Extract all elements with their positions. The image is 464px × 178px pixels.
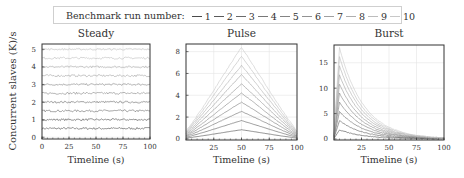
y-tick-label: 0: [324, 135, 328, 143]
x-tick-label: 75: [265, 144, 274, 152]
y-tick-label: 0: [176, 135, 180, 143]
x-tick-label: 75: [119, 143, 128, 151]
chart-title: Burst: [374, 27, 404, 39]
chart-title: Pulse: [227, 27, 256, 39]
x-axis-label: Timeline (s): [213, 154, 270, 165]
x-axis-label: Timeline (s): [67, 154, 124, 165]
x-tick-label: 100: [143, 143, 156, 151]
x-tick-label: 75: [412, 144, 421, 152]
x-tick-label: 25: [65, 143, 74, 151]
x-tick-label: 50: [92, 143, 101, 151]
chart-title: Steady: [78, 27, 115, 39]
x-axis-label: Timeline (s): [360, 154, 417, 165]
y-tick-label: 5: [324, 110, 328, 118]
x-tick-label: 100: [290, 144, 303, 152]
y-tick-label: 0: [32, 134, 36, 142]
x-tick-label: 50: [237, 144, 246, 152]
x-tick-label: 25: [357, 144, 366, 152]
x-tick-label: 100: [437, 144, 450, 152]
y-tick-label: 4: [32, 63, 37, 71]
x-tick-label: 50: [385, 144, 394, 152]
y-tick-label: 2: [176, 114, 180, 122]
y-axis-label: Concurrent slaves (K)/s: [7, 31, 18, 150]
chart-pulse: 25507510002468PulseTimeline (s): [176, 27, 304, 165]
x-tick-label: 0: [40, 143, 44, 151]
y-tick-label: 8: [176, 48, 180, 56]
y-tick-label: 1: [32, 116, 36, 124]
x-tick-label: 25: [209, 144, 218, 152]
y-tick-label: 6: [176, 70, 181, 78]
chart-steady: 0255075100012345SteadyTimeline (s): [32, 27, 157, 165]
y-tick-label: 5: [32, 46, 36, 54]
y-tick-label: 2: [32, 99, 36, 107]
y-tick-label: 3: [32, 81, 36, 89]
y-tick-label: 10: [319, 85, 328, 93]
y-tick-label: 15: [319, 59, 328, 67]
chart-burst: 255075100051015BurstTimeline (s): [319, 27, 451, 165]
y-tick-label: 4: [176, 92, 181, 100]
charts-canvas: Concurrent slaves (K)/s 0255075100012345…: [0, 0, 464, 178]
